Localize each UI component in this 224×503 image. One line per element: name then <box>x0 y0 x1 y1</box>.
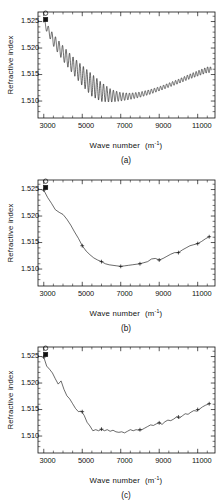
filled-square-icon <box>43 185 47 189</box>
ytick-label-2: 1.515 <box>21 404 39 413</box>
x-axis-label: Wave number(m-1) <box>90 140 163 150</box>
plot-frame <box>38 180 215 286</box>
y-axis-label: Refractive index <box>6 203 15 262</box>
data-point-plus-marker <box>196 241 200 245</box>
xtick-label-0: 3000 <box>39 121 55 130</box>
data-point-plus-marker <box>177 415 181 419</box>
filled-square-icon <box>43 17 47 21</box>
ytick-label-0: 1.525 <box>21 351 39 360</box>
panel-c: 1.525 1.520 1.515 1.510 3000 5000 7000 9… <box>0 335 224 503</box>
xtick-label-2: 7000 <box>117 456 133 465</box>
data-point-plus-marker <box>157 421 161 425</box>
ytick-label-2: 1.515 <box>21 69 39 78</box>
panel-a-axes <box>38 12 215 118</box>
ytick-label-0: 1.525 <box>21 16 39 25</box>
panel-c-axes <box>38 347 215 453</box>
xtick-label-4: 11000 <box>192 121 212 130</box>
panel-a-plot: 1.525 1.520 1.515 1.510 3000 5000 7000 9… <box>0 0 224 168</box>
x-axis-label: Wave number(m-1) <box>90 475 163 485</box>
ytick-label-2: 1.515 <box>21 237 39 246</box>
data-point-plus-marker <box>100 259 104 263</box>
y-axis-label: Refractive index <box>6 35 15 94</box>
xtick-label-0: 3000 <box>39 456 55 465</box>
data-point-plus-marker <box>138 261 142 265</box>
panel-b-axes <box>38 180 215 286</box>
xtick-label-4: 11000 <box>192 289 212 298</box>
data-point-markers-b <box>42 188 211 268</box>
ytick-label-3: 1.510 <box>21 431 39 440</box>
y-axis-label: Refractive index <box>6 371 15 430</box>
data-point-plus-marker <box>157 258 161 262</box>
axis-ticks <box>38 12 215 118</box>
xtick-label-1: 5000 <box>78 456 94 465</box>
data-curve-c <box>44 357 209 433</box>
xtick-label-3: 9000 <box>155 121 171 130</box>
panel-b: 1.525 1.520 1.515 1.510 3000 5000 7000 9… <box>0 168 224 336</box>
xtick-label-4: 11000 <box>192 456 212 465</box>
ytick-label-3: 1.510 <box>21 96 39 105</box>
ytick-label-1: 1.520 <box>21 378 39 387</box>
data-curve-a <box>44 20 211 102</box>
panel-b-plot: 1.525 1.520 1.515 1.510 3000 5000 7000 9… <box>0 168 224 336</box>
data-point-plus-marker <box>207 402 211 406</box>
panel-caption-c: (c) <box>121 491 131 500</box>
filled-square-icon <box>43 352 47 356</box>
axis-ticks <box>38 180 215 286</box>
ytick-label-1: 1.520 <box>21 210 39 219</box>
xtick-label-3: 9000 <box>155 289 171 298</box>
data-point-plus-marker <box>119 264 123 268</box>
ytick-label-1: 1.520 <box>21 43 39 52</box>
ytick-label-0: 1.525 <box>21 184 39 193</box>
xtick-label-3: 9000 <box>155 456 171 465</box>
data-curve-b <box>44 190 209 266</box>
panel-caption-b: (b) <box>121 324 131 333</box>
data-point-plus-marker <box>100 427 104 431</box>
data-point-markers-c <box>42 355 211 431</box>
ytick-label-3: 1.510 <box>21 263 39 272</box>
data-point-plus-marker <box>207 234 211 238</box>
data-point-plus-marker <box>80 410 84 414</box>
xtick-label-0: 3000 <box>39 289 55 298</box>
panel-c-plot: 1.525 1.520 1.515 1.510 3000 5000 7000 9… <box>0 335 224 503</box>
x-axis-label: Wave number(m-1) <box>90 308 163 318</box>
figure-refractive-index: 1.525 1.520 1.515 1.510 3000 5000 7000 9… <box>0 0 224 503</box>
xtick-label-1: 5000 <box>78 289 94 298</box>
plot-frame <box>38 12 215 118</box>
axis-ticks <box>38 347 215 453</box>
data-point-plus-marker <box>138 428 142 432</box>
panel-caption-a: (a) <box>121 156 131 165</box>
plot-frame <box>38 347 215 453</box>
panel-a: 1.525 1.520 1.515 1.510 3000 5000 7000 9… <box>0 0 224 168</box>
xtick-label-2: 7000 <box>117 289 133 298</box>
xtick-label-2: 7000 <box>117 121 133 130</box>
xtick-label-1: 5000 <box>78 121 94 130</box>
data-point-plus-marker <box>177 250 181 254</box>
